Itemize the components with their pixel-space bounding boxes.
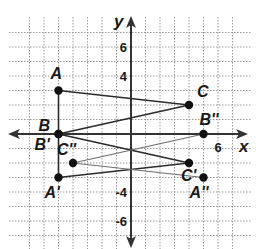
point-label-B2: B'': [200, 111, 220, 128]
point-A2: [199, 173, 207, 181]
x-axis-label: x: [238, 137, 250, 156]
point-label-B1: B': [35, 136, 52, 153]
y-axis-label: y: [113, 12, 125, 31]
point-label-C1: C': [181, 167, 198, 184]
point-C: [185, 101, 193, 109]
point-C1: [185, 159, 193, 167]
y-tick-label: 4: [120, 69, 128, 84]
y-tick-label: -6: [115, 214, 127, 229]
triangle-points: ABCA'B'C'A''B''C'': [35, 65, 220, 201]
segment-A-C: [59, 91, 190, 106]
y-tick-label: 6: [120, 40, 127, 55]
point-label-A2: A'': [189, 184, 210, 201]
point-A1: [54, 173, 62, 181]
point-A: [54, 86, 62, 94]
y-tick-label: -4: [115, 185, 127, 200]
point-B1: [54, 130, 62, 138]
point-label-C2: C'': [57, 141, 77, 158]
point-label-B: B: [39, 117, 51, 134]
point-label-A1: A': [44, 184, 62, 201]
point-label-A: A: [50, 65, 63, 82]
point-B2: [199, 130, 207, 138]
coordinate-plane: x y 64-4-66 ABCA'B'C'A''B''C'': [0, 0, 265, 249]
x-tick-label: 6: [214, 140, 221, 155]
segment-A1-C1: [59, 163, 190, 178]
point-label-C: C: [197, 83, 209, 100]
point-C2: [69, 159, 77, 167]
